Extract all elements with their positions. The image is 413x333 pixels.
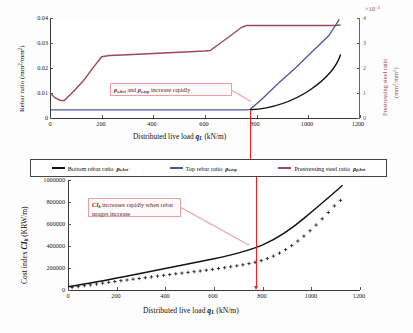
annotation-bottom-line1: increases rapidly when bbox=[102, 201, 159, 208]
legend-item-top-rebar: Top rebar ratio ρs,top bbox=[170, 165, 237, 172]
legend-item-bottom-rebar: Bottom rebar ratio ρs,bot bbox=[52, 165, 128, 172]
legend-symbol-prestressing: ρp,bot bbox=[353, 165, 365, 172]
legend-swatch-blue bbox=[170, 167, 183, 169]
legend-label-top: Top rebar ratio bbox=[186, 165, 223, 172]
annotation-text-top: and bbox=[127, 86, 137, 93]
top-chart-panel: 0 0.01 0.02 0.03 0.04 0 1 2 3 4 ×10⁻³ 0 … bbox=[0, 0, 413, 152]
legend-swatch-black bbox=[52, 167, 65, 169]
bottom-chart-curve bbox=[0, 160, 413, 333]
legend-label-prestressing: Prestressing steel ratio bbox=[294, 165, 350, 172]
marker-line-top bbox=[250, 110, 251, 160]
legend-label-bottom: Bottom rebar ratio bbox=[68, 165, 114, 172]
annotation-tail-top: increase rapidly bbox=[151, 86, 190, 93]
marker-arrow-bottom bbox=[254, 286, 258, 290]
bottom-chart-annotation: CIb increases rapidly when rebar usages … bbox=[88, 198, 181, 217]
top-chart-curves bbox=[0, 0, 413, 152]
annotation-rho-s-bot: ρs,bot bbox=[114, 86, 126, 93]
legend-symbol-top: ρs,top bbox=[225, 165, 237, 172]
bottom-chart-panel: 0 200000 400000 600000 800000 1000000 0 … bbox=[0, 160, 413, 333]
annotation-rho-s-top: ρs,top bbox=[138, 86, 150, 93]
chart-legend: Bottom rebar ratio ρs,bot Top rebar rati… bbox=[30, 159, 387, 177]
top-chart-annotation: ρs,bot and ρs,top increase rapidly bbox=[110, 83, 232, 96]
legend-symbol-bottom: ρs,bot bbox=[116, 165, 128, 172]
curve-bottom-rebar bbox=[250, 55, 340, 110]
annotation-ci-b: CIb bbox=[92, 201, 101, 208]
marker-line-bottom bbox=[256, 160, 257, 288]
legend-swatch-maroon bbox=[278, 167, 291, 169]
figure-root: 0 0.01 0.02 0.03 0.04 0 1 2 3 4 ×10⁻³ 0 … bbox=[0, 0, 413, 333]
legend-item-prestressing: Prestressing steel ratio ρp,bot bbox=[278, 165, 365, 172]
curve-top-rebar bbox=[50, 19, 339, 110]
